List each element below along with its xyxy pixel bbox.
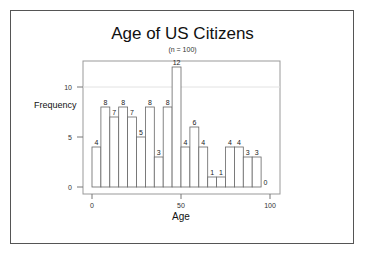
bar-value-label: 4 (228, 139, 232, 146)
bar-value-label: 1 (210, 169, 214, 176)
bar-value-label: 8 (166, 99, 170, 106)
bar-value-label: 3 (157, 149, 161, 156)
histogram-bar (217, 177, 226, 187)
bar-value-label: 12 (173, 59, 181, 66)
histogram-bar (163, 107, 172, 187)
y-tick-label: 5 (68, 134, 72, 141)
y-tick-label: 0 (68, 184, 72, 191)
histogram-bar (199, 147, 208, 187)
bar-value-label: 8 (103, 99, 107, 106)
histogram-bar (243, 157, 252, 187)
bar-value-label: 3 (246, 149, 250, 156)
bar-value-label: 4 (183, 139, 187, 146)
histogram-bar (252, 157, 261, 187)
bar-value-label: 3 (255, 149, 259, 156)
x-tick-label: 0 (90, 202, 94, 209)
bar-value-label: 4 (201, 139, 205, 146)
histogram-bar (208, 177, 217, 187)
histogram-bar (181, 147, 190, 187)
bar-value-label: 0 (264, 179, 268, 186)
histogram-bar (145, 107, 154, 187)
histogram-bar (101, 107, 110, 187)
histogram-bar (110, 117, 119, 187)
histogram-bar (234, 147, 243, 187)
histogram-bar (128, 117, 137, 187)
histogram-bar (137, 137, 146, 187)
histogram-bar (226, 147, 235, 187)
histogram-bar (119, 107, 128, 187)
bar-value-label: 5 (139, 129, 143, 136)
y-tick-label: 10 (64, 84, 72, 91)
histogram-bar (190, 127, 199, 187)
bar-value-label: 7 (112, 109, 116, 116)
histogram-bar (154, 157, 163, 187)
histogram-plot: 0510050100487875838124641144330 (0, 0, 365, 255)
bar-value-label: 4 (237, 139, 241, 146)
histogram-bar (172, 67, 181, 187)
x-tick-label: 50 (177, 202, 185, 209)
bar-value-label: 4 (94, 139, 98, 146)
histogram-bar (92, 147, 101, 187)
bar-value-label: 1 (219, 169, 223, 176)
bar-value-label: 6 (192, 119, 196, 126)
bar-value-label: 7 (130, 109, 134, 116)
bar-value-label: 8 (121, 99, 125, 106)
bar-value-label: 8 (148, 99, 152, 106)
x-tick-label: 100 (264, 202, 276, 209)
